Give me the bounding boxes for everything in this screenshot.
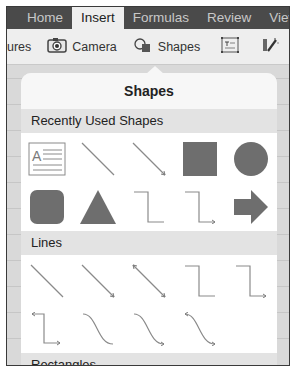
svg-text:A: A: [32, 148, 42, 164]
elbow-connector-icon: [132, 190, 166, 224]
section-lines: Lines: [21, 231, 277, 255]
pictures-label: ures: [7, 40, 31, 54]
shape-arrow-line[interactable]: [73, 261, 123, 301]
line-icon: [28, 263, 66, 299]
insert-toolbar: ures Camera Shapes: [7, 29, 289, 65]
curved-double-arrow-connector-icon: [183, 312, 217, 346]
shape-circle[interactable]: [226, 139, 276, 179]
section-recently-used: Recently Used Shapes: [21, 109, 277, 133]
text-box-button[interactable]: [220, 36, 240, 57]
circle-icon: [233, 141, 269, 177]
magic-wand-icon: [260, 36, 280, 57]
shape-line[interactable]: [22, 261, 72, 301]
shape-curved-double-arrow-connector[interactable]: [175, 309, 225, 349]
elbow-double-arrow-connector-icon: [30, 312, 64, 346]
camera-label: Camera: [72, 40, 116, 54]
shape-double-arrow-line[interactable]: [124, 261, 174, 301]
shape-elbow-connector[interactable]: [124, 187, 174, 227]
tab-home[interactable]: Home: [7, 7, 72, 29]
lines-grid: [21, 255, 277, 353]
shapes-button[interactable]: Shapes: [133, 37, 200, 56]
shapes-icon: [133, 37, 153, 56]
app-frame: Home Insert Formulas Review View ures Ca…: [6, 6, 290, 366]
tab-view[interactable]: View: [260, 7, 290, 29]
elbow-connector-icon: [183, 264, 217, 298]
double-arrow-line-icon: [130, 263, 168, 299]
tab-insert[interactable]: Insert: [72, 7, 124, 29]
shape-text-box[interactable]: A: [22, 139, 72, 179]
line-icon: [79, 141, 117, 177]
rounded-square-icon: [29, 189, 65, 225]
shape-elbow-arrow-connector[interactable]: [175, 187, 225, 227]
arrow-line-icon: [130, 141, 168, 177]
shape-triangle[interactable]: [73, 187, 123, 227]
elbow-arrow-connector-icon: [234, 264, 268, 298]
arrow-line-icon: [79, 263, 117, 299]
tab-review[interactable]: Review: [198, 7, 260, 29]
triangle-icon: [79, 189, 117, 225]
shape-square[interactable]: [175, 139, 225, 179]
shape-line[interactable]: [73, 139, 123, 179]
right-arrow-icon: [233, 189, 269, 225]
shape-right-arrow[interactable]: [226, 187, 276, 227]
shape-rounded-square[interactable]: [22, 187, 72, 227]
shape-arrow-line[interactable]: [124, 139, 174, 179]
camera-button[interactable]: Camera: [47, 37, 116, 56]
recent-shapes-grid: A: [21, 133, 277, 231]
pictures-button[interactable]: ures: [7, 40, 31, 54]
section-rectangles: Rectangles: [21, 353, 277, 366]
shape-curved-arrow-connector[interactable]: [124, 309, 174, 349]
shape-elbow-double-arrow-connector[interactable]: [22, 309, 72, 349]
ribbon-tab-bar: Home Insert Formulas Review View: [7, 7, 289, 29]
shape-elbow-connector[interactable]: [175, 261, 225, 301]
shapes-label: Shapes: [158, 40, 200, 54]
shape-elbow-arrow-connector[interactable]: [226, 261, 276, 301]
curved-connector-icon: [81, 312, 115, 346]
camera-icon: [47, 37, 67, 56]
text-box-icon: [220, 36, 240, 57]
tab-formulas[interactable]: Formulas: [124, 7, 198, 29]
shape-curved-connector[interactable]: [73, 309, 123, 349]
popover-title: Shapes: [21, 73, 277, 109]
elbow-arrow-connector-icon: [183, 190, 217, 224]
curved-arrow-connector-icon: [132, 312, 166, 346]
magic-wand-button[interactable]: [260, 36, 280, 57]
square-icon: [182, 141, 218, 177]
shapes-popover: Shapes Recently Used Shapes A: [21, 73, 277, 366]
text-box-icon: A: [28, 142, 66, 176]
